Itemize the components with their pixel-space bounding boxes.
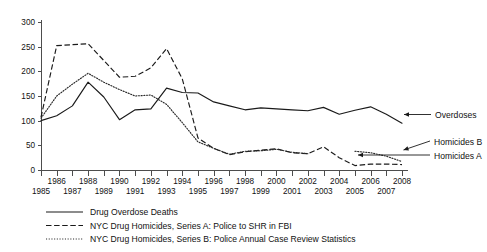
line-chart-figure: 050100150200250300 198519861987198819891… bbox=[0, 0, 487, 252]
chart-container: 050100150200250300 198519861987198819891… bbox=[0, 0, 487, 252]
x-tick-label: 1997 bbox=[220, 187, 239, 196]
x-tick-label: 1999 bbox=[252, 187, 271, 196]
annotation-label-homicides-b: Homicides B bbox=[434, 137, 483, 147]
x-tick-label: 2001 bbox=[283, 187, 302, 196]
y-tick-label: 50 bbox=[26, 141, 36, 150]
x-tick-label: 2008 bbox=[393, 177, 412, 186]
x-tick-label: 1992 bbox=[142, 177, 161, 186]
x-tick-label: 2000 bbox=[267, 177, 286, 186]
x-tick-label: 1998 bbox=[236, 177, 255, 186]
x-tick-label: 1991 bbox=[126, 187, 145, 196]
y-tick-label: 250 bbox=[21, 43, 35, 52]
legend-label-1: Drug Overdose Deaths bbox=[90, 207, 178, 217]
legend-label-2: NYC Drug Homicides, Series A: Police to … bbox=[90, 221, 292, 231]
annotation-label-homicides-a: Homicides A bbox=[434, 151, 482, 161]
y-tick-label: 0 bbox=[30, 166, 35, 175]
chart-background bbox=[0, 0, 487, 252]
x-tick-label: 1985 bbox=[32, 187, 51, 196]
y-tick-label: 200 bbox=[21, 67, 35, 76]
y-tick-label: 100 bbox=[21, 117, 35, 126]
x-tick-label: 1993 bbox=[157, 187, 176, 196]
x-tick-label: 2002 bbox=[299, 177, 318, 186]
x-tick-label: 1994 bbox=[173, 177, 192, 186]
x-tick-label: 2004 bbox=[330, 177, 349, 186]
y-tick-label: 150 bbox=[21, 92, 35, 101]
x-tick-label: 1986 bbox=[48, 177, 67, 186]
x-tick-label: 2005 bbox=[346, 187, 365, 196]
x-tick-label: 1988 bbox=[79, 177, 98, 186]
legend-label-3: NYC Drug Homicides, Series B: Police Ann… bbox=[90, 234, 356, 244]
x-tick-label: 2007 bbox=[377, 187, 396, 196]
x-tick-label: 1996 bbox=[205, 177, 224, 186]
annotation-label-overdoses: Overdoses bbox=[435, 110, 477, 120]
x-tick-label: 2003 bbox=[314, 187, 333, 196]
x-tick-label: 2006 bbox=[361, 177, 380, 186]
x-tick-label: 1995 bbox=[189, 187, 208, 196]
x-tick-label: 1987 bbox=[63, 187, 82, 196]
x-tick-label: 1990 bbox=[110, 177, 129, 186]
x-tick-label: 1989 bbox=[95, 187, 114, 196]
y-tick-label: 300 bbox=[21, 18, 35, 27]
